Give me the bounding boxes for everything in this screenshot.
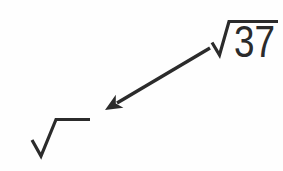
source-radicand: 37: [234, 17, 275, 66]
math-figure: 37: [0, 0, 283, 171]
figure-canvas: 37: [0, 0, 283, 171]
